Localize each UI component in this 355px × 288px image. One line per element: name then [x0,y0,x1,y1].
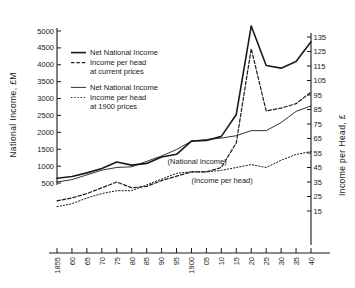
left-tick-label: 2000 [37,128,54,137]
left-tick-label: 5000 [37,27,54,36]
right-tick-label: 135 [314,33,327,42]
right-tick-label: 105 [314,76,327,85]
legend-label: at 1900 prices [90,102,137,111]
x-tick-label: 95 [172,257,181,265]
right-tick-label: 15 [314,207,322,216]
curve-annotation: (National Income) [168,157,228,166]
x-tick-label: 05 [202,257,211,265]
legend: Net National IncomeIncome per headat cur… [71,48,158,111]
right-tick-label: 95 [314,91,322,100]
x-tick-label: 40 [307,257,316,265]
right-tick-label: 35 [314,178,322,187]
legend-label: Net National Income [90,48,158,57]
right-tick-label: 25 [314,192,322,201]
left-tick-label: 4500 [37,43,54,52]
x-tick-label: 75 [113,257,122,265]
x-tick-label: 15 [232,257,241,265]
x-tick-label: 20 [247,257,256,265]
right-axis-ticks: 152535455565758595105115125135 [307,33,326,216]
x-tick-label: 1900 [187,257,196,274]
x-tick-label: 70 [98,257,107,265]
x-tick-label: 10 [217,257,226,265]
x-tick-label: 35 [292,257,301,265]
x-axis-ticks: 1855606570758085909519000510152025303540 [53,248,316,274]
right-tick-label: 65 [314,134,322,143]
right-tick-label: 45 [314,163,322,172]
left-tick-label: 4000 [37,60,54,69]
right-tick-label: 85 [314,105,322,114]
right-tick-label: 75 [314,120,322,129]
right-tick-label: 125 [314,47,327,56]
curve-annotation: (Income per head) [191,176,253,185]
line-chart: 500100015002000250030003500400045005000 … [0,0,355,288]
x-tick-label: 1855 [53,257,62,274]
left-tick-label: 3000 [37,94,54,103]
x-tick-label: 90 [157,257,166,265]
x-tick-label: 65 [83,257,92,265]
left-tick-label: 3500 [37,77,54,86]
left-axis-title: National Income, £M [8,72,18,158]
x-tick-label: 80 [128,257,137,265]
x-tick-label: 85 [142,257,151,265]
right-axis-title: Income per Head, £ [337,114,347,196]
left-tick-label: 500 [41,179,54,188]
x-tick-label: 25 [262,257,271,265]
chart-figure: 500100015002000250030003500400045005000 … [0,0,355,288]
x-tick-label: 30 [277,257,286,265]
right-tick-label: 115 [314,62,326,71]
legend-label: Net National Income [90,83,158,92]
left-tick-label: 1500 [37,145,54,154]
left-tick-label: 2500 [37,111,54,120]
left-tick-label: 1000 [37,162,54,171]
x-tick-label: 60 [68,257,77,265]
right-tick-label: 55 [314,149,322,158]
legend-label: at current prices [90,67,144,76]
